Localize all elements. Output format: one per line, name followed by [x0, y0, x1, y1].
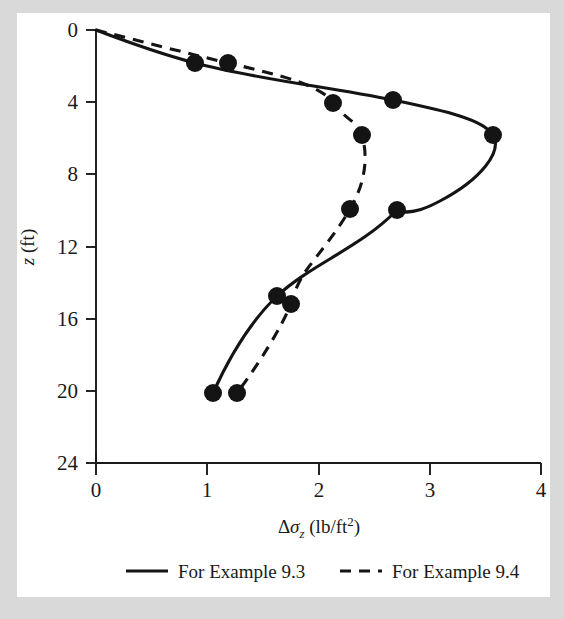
series-9-4-point-1 [219, 54, 237, 72]
series-9-4-point-5 [282, 295, 300, 313]
series-9-4-point-3 [353, 126, 371, 144]
legend-entry-for-example-9-4[interactable]: For Example 9.4 [340, 561, 520, 582]
series-9-4-line [96, 30, 365, 393]
y-tick-label-24: 24 [57, 451, 79, 475]
x-tick-label-1: 1 [202, 478, 213, 502]
series-9-3-point-3 [484, 126, 502, 144]
x-tick-label-2: 2 [314, 478, 325, 502]
y-tick-label-4: 4 [68, 90, 79, 114]
y-axis-tick-labels: 0 4 8 12 16 20 24 [57, 18, 79, 475]
y-tick-label-0: 0 [68, 18, 79, 42]
chart-legend: For Example 9.3 For Example 9.4 [126, 561, 520, 582]
y-tick-label-20: 20 [57, 379, 78, 403]
series-9-3-point-2 [384, 91, 402, 109]
x-axis-title: Δσz (lb/ft2) [278, 514, 360, 541]
series-9-4-point-2 [324, 94, 342, 112]
x-axis-title-units-post: ) [354, 516, 360, 538]
x-tick-label-3: 3 [425, 478, 436, 502]
y-tick-label-8: 8 [68, 162, 79, 186]
x-axis-title-units-pre: (lb/ft [305, 516, 348, 538]
x-axis-tick-labels: 0 1 2 3 4 [91, 478, 547, 502]
series-9-3-point-6 [204, 384, 222, 402]
x-tick-label-0: 0 [91, 478, 102, 502]
series-9-3-point-4 [388, 201, 406, 219]
y-axis-title-units: (ft) [17, 229, 39, 258]
legend-label-9-4: For Example 9.4 [392, 561, 520, 582]
y-tick-label-16: 16 [57, 307, 78, 331]
legend-label-9-3: For Example 9.3 [178, 561, 305, 582]
series-9-4-point-6 [228, 384, 246, 402]
y-axis-ticks [86, 30, 96, 463]
series-for-example-9-4 [96, 30, 371, 402]
x-axis-title-delta: Δ [278, 516, 290, 537]
series-9-3-point-1 [186, 54, 204, 72]
y-tick-label-12: 12 [57, 235, 78, 259]
series-9-4-point-4 [341, 200, 359, 218]
y-axis-title: z (ft) [17, 229, 39, 266]
series-for-example-9-3 [96, 30, 502, 402]
axis-lines [96, 30, 541, 463]
x-tick-label-4: 4 [536, 478, 547, 502]
legend-entry-for-example-9-3[interactable]: For Example 9.3 [126, 561, 305, 582]
figure-root: 0 4 8 12 16 20 24 0 1 2 3 4 Δσz (lb/ft2) [0, 0, 564, 619]
depth-stress-chart: 0 4 8 12 16 20 24 0 1 2 3 4 Δσz (lb/ft2) [0, 0, 564, 619]
series-9-3-line [96, 30, 495, 393]
